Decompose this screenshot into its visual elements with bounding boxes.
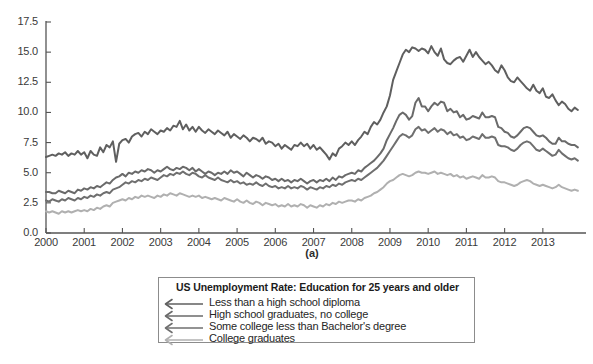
x-axis-tick-label: 2003 — [141, 236, 181, 248]
x-axis-tick-label: 2005 — [217, 236, 257, 248]
legend-entry-label: College graduates — [209, 332, 295, 344]
chart-legend: US Unemployment Rate: Education for 25 y… — [158, 277, 475, 343]
legend-entry: Less than a high school diploma — [163, 295, 360, 308]
x-axis-tick-label: 2000 — [26, 236, 66, 248]
legend-arrow-icon — [163, 308, 205, 320]
y-axis-tick-label: 15.0 — [4, 45, 38, 57]
series-line-3 — [46, 172, 578, 214]
legend-title: US Unemployment Rate: Education for 25 y… — [159, 281, 476, 293]
legend-entry: College graduates — [163, 332, 295, 345]
x-axis-tick-label: 2009 — [370, 236, 410, 248]
y-axis-tick-label: 2.5 — [4, 196, 38, 208]
y-axis-tick-label: 17.5 — [4, 15, 38, 27]
x-axis-tick-label: 2008 — [332, 236, 372, 248]
legend-arrow-icon — [163, 320, 205, 332]
x-axis-tick-label: 2006 — [255, 236, 295, 248]
x-axis-tick-label: 2001 — [64, 236, 104, 248]
y-axis-tick-label: 7.5 — [4, 136, 38, 148]
plot-area: 0.02.55.07.510.012.515.017.5 20002001200… — [0, 0, 593, 250]
x-axis-tick-label: 2002 — [102, 236, 142, 248]
series-lines — [46, 46, 578, 214]
legend-entry-label: Less than a high school diploma — [209, 296, 360, 308]
legend-entry: High school graduates, no college — [163, 307, 368, 320]
y-axis-tick-label: 5.0 — [4, 166, 38, 178]
y-axis-tick-label: 12.5 — [4, 75, 38, 87]
x-axis-tick-label: 2004 — [179, 236, 219, 248]
line-chart — [0, 0, 593, 250]
x-axis-tick-label: 2011 — [446, 236, 486, 248]
legend-entry: Some college less than Bachelor's degree — [163, 319, 406, 332]
x-axis-tick-label: 2013 — [523, 236, 563, 248]
figure: 0.02.55.07.510.012.515.017.5 20002001200… — [0, 0, 593, 364]
axes — [46, 21, 586, 233]
x-axis-tick-label: 2012 — [485, 236, 525, 248]
y-axis-tick-label: 10.0 — [4, 105, 38, 117]
legend-entry-label: High school graduates, no college — [209, 308, 368, 320]
legend-arrow-icon — [163, 332, 205, 344]
legend-entry-label: Some college less than Bachelor's degree — [209, 320, 406, 332]
figure-subcaption: (a) — [292, 247, 332, 259]
x-axis-tick-label: 2010 — [408, 236, 448, 248]
legend-arrow-icon — [163, 296, 205, 308]
